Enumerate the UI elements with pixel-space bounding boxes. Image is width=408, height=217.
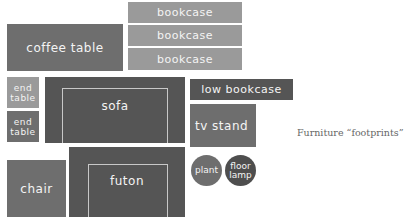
bookcase-3-label: bookcase bbox=[157, 53, 213, 66]
end-table-2-label-line2: table bbox=[10, 127, 35, 137]
end-table-2-label-line1: end bbox=[14, 117, 32, 127]
coffee-table-label: coffee table bbox=[26, 41, 103, 55]
end-table-1-label-line2: table bbox=[10, 93, 35, 103]
tv-stand: tv stand bbox=[190, 104, 256, 147]
plant: plant bbox=[191, 155, 222, 186]
floor-lamp: floor lamp bbox=[225, 155, 256, 186]
end-table-2: end table bbox=[7, 111, 39, 142]
tv-stand-label: tv stand bbox=[195, 119, 248, 133]
futon: futon bbox=[69, 147, 185, 217]
plant-label: plant bbox=[195, 166, 218, 175]
futon-label: futon bbox=[110, 174, 144, 188]
sofa: sofa bbox=[45, 77, 185, 143]
coffee-table: coffee table bbox=[7, 24, 123, 71]
floor-lamp-label-line2: lamp bbox=[229, 171, 252, 180]
bookcase-1: bookcase bbox=[128, 2, 242, 23]
sofa-label: sofa bbox=[101, 99, 128, 113]
bookcase-2: bookcase bbox=[128, 25, 242, 46]
futon-seat-outline bbox=[88, 164, 168, 217]
chair: chair bbox=[7, 160, 66, 217]
chair-label: chair bbox=[20, 182, 52, 196]
end-table-1: end table bbox=[7, 77, 39, 108]
low-bookcase-label: low bookcase bbox=[201, 83, 281, 96]
bookcase-2-label: bookcase bbox=[157, 29, 213, 42]
bookcase-1-label: bookcase bbox=[157, 6, 213, 19]
end-table-1-label-line1: end bbox=[14, 83, 32, 93]
bookcase-3: bookcase bbox=[128, 48, 242, 70]
diagram-caption: Furniture “footprints” bbox=[297, 127, 404, 138]
sofa-seat-outline bbox=[62, 88, 168, 143]
low-bookcase: low bookcase bbox=[190, 79, 293, 100]
